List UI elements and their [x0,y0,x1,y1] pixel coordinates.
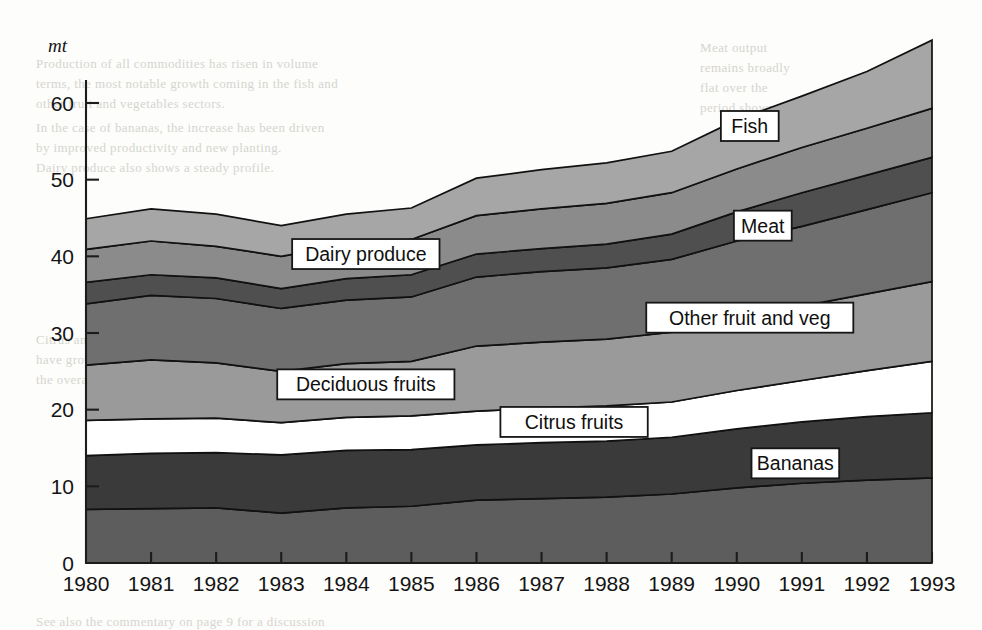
x-tick-label-1980: 1980 [63,572,110,595]
series-label-bananas[interactable]: Bananas [752,448,840,478]
y-tick-label-50: 50 [51,168,74,191]
series-label-text: Dairy produce [305,243,426,265]
series-label-citrus-fruits[interactable]: Citrus fruits [500,407,647,437]
series-label-dairy-produce[interactable]: Dairy produce [292,239,439,269]
series-label-other-fruit-and-veg[interactable]: Other fruit and veg [646,303,853,333]
x-tick-label-1982: 1982 [193,572,240,595]
series-label-text: Fish [731,115,768,137]
x-tick-label-1989: 1989 [648,572,695,595]
x-tick-label-1992: 1992 [844,572,891,595]
area-bands [86,40,932,563]
series-label-text: Deciduous fruits [296,373,436,395]
series-label-fish[interactable]: Fish [721,111,779,141]
x-tick-label-1987: 1987 [518,572,565,595]
x-tick-label-1983: 1983 [258,572,305,595]
y-tick-label-20: 20 [51,398,74,421]
x-tick-label-1990: 1990 [713,572,760,595]
x-tick-label-1991: 1991 [778,572,825,595]
y-tick-label-60: 60 [51,92,74,115]
y-tick-label-30: 30 [51,322,74,345]
x-tick-label-1993: 1993 [909,572,956,595]
x-tick-label-1986: 1986 [453,572,500,595]
y-tick-label-10: 10 [51,475,74,498]
y-axis-unit-label: mt [48,35,68,56]
x-tick-label-1988: 1988 [583,572,630,595]
series-label-meat[interactable]: Meat [734,211,792,241]
series-label-text: Bananas [757,452,834,474]
series-label-text: Meat [741,215,785,237]
series-label-text: Citrus fruits [525,411,624,433]
x-tick-label-1981: 1981 [128,572,175,595]
y-tick-label-40: 40 [51,245,74,268]
x-tick-label-1985: 1985 [388,572,435,595]
series-label-deciduous-fruits[interactable]: Deciduous fruits [277,369,454,399]
x-tick-label-1984: 1984 [323,572,370,595]
series-label-text: Other fruit and veg [669,307,831,329]
